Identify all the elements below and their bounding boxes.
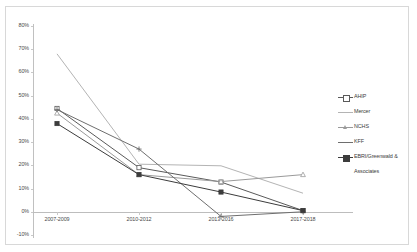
legend-item-ahip[interactable]: AHIP <box>338 93 414 108</box>
legend-item-label: EBRI/Greenwald & <box>353 153 398 160</box>
legend-item-continuation[interactable]: Associates <box>338 168 414 183</box>
chart-legend: AHIPMercerNCHSKFFEBRI/Greenwald &Associa… <box>338 93 414 183</box>
series-line <box>57 54 303 193</box>
series-line <box>57 110 303 217</box>
legend-item-label: AHIP <box>353 93 366 100</box>
series-mercer <box>57 54 303 193</box>
legend-point-icon <box>341 142 350 143</box>
chart-container: 80%70%60%50%40%30%20%10%0%-10% 2007-2009… <box>0 0 417 252</box>
legend-item-label: KFF <box>353 138 364 145</box>
legend-item-kff[interactable]: KFF <box>338 138 414 153</box>
legend-marker-triangle-open-icon <box>338 124 353 131</box>
series-line <box>57 113 303 182</box>
data-point-marker <box>137 166 141 170</box>
legend-point-icon <box>343 95 350 102</box>
data-point-marker <box>219 190 223 194</box>
series-ebri-greenwald-associates <box>55 121 305 212</box>
data-point-marker <box>55 121 59 125</box>
legend-item-nchs[interactable]: NCHS <box>338 123 414 138</box>
legend-item-label: Associates <box>353 168 379 175</box>
series-nchs <box>55 111 306 184</box>
data-point-marker <box>137 173 141 177</box>
legend-item-ebri-greenwald-associates[interactable]: EBRI/Greenwald & <box>338 153 414 168</box>
series-line <box>57 108 303 210</box>
legend-point-icon <box>343 155 350 162</box>
series-ahip <box>55 106 305 212</box>
legend-point-icon <box>343 125 347 129</box>
legend-item-label: NCHS <box>353 123 369 130</box>
legend-marker-square-open-icon <box>338 94 353 101</box>
legend-item-mercer[interactable]: Mercer <box>338 108 414 123</box>
legend-marker-square-filled-icon <box>338 154 353 161</box>
legend-marker-plus-icon <box>338 139 353 146</box>
legend-item-label: Mercer <box>353 108 370 115</box>
legend-line-icon <box>338 112 353 113</box>
legend-marker-none-icon <box>338 109 353 116</box>
legend-spacer <box>338 169 353 176</box>
data-point-marker <box>301 209 305 213</box>
